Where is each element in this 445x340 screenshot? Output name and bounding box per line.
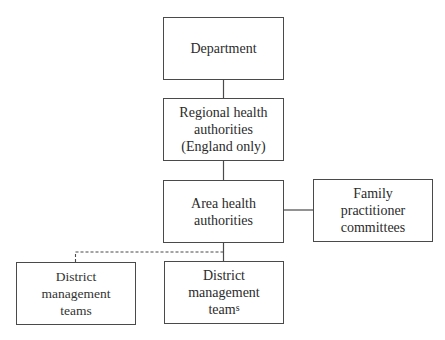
node-label: team <box>208 302 235 317</box>
node-district-management-teams-right: District management teams <box>164 261 284 324</box>
node-label: District <box>56 268 97 285</box>
node-label-with-suffix: teams <box>208 301 239 319</box>
node-label: Department <box>190 40 256 57</box>
node-label: teams <box>60 302 92 319</box>
raised-suffix: s <box>236 302 240 313</box>
node-label: committees <box>341 219 406 236</box>
node-label: Regional health <box>179 104 267 121</box>
node-area-health-authorities: Area health authorities <box>163 180 284 243</box>
node-label: Area health <box>191 195 256 212</box>
node-family-practitioner-committees: Family practitioner committees <box>313 179 433 242</box>
org-chart-diagram: Department Regional health authorities (… <box>0 0 445 340</box>
node-label: authorities <box>194 212 253 229</box>
node-label: (England only) <box>181 138 265 155</box>
node-label: District <box>203 267 245 284</box>
node-label: management <box>42 285 111 302</box>
node-label: authorities <box>194 121 253 138</box>
node-district-management-teams-left: District management teams <box>16 262 136 325</box>
node-department: Department <box>163 17 284 80</box>
node-label: management <box>188 284 260 301</box>
node-regional-health-authorities: Regional health authorities (England onl… <box>163 98 284 161</box>
node-label: Family <box>353 185 393 202</box>
node-label: practitioner <box>341 202 406 219</box>
